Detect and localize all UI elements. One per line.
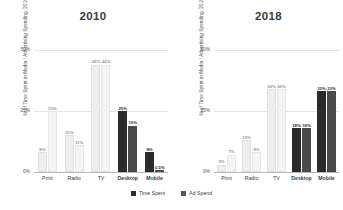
- bar-group: 8%25%Print: [34, 50, 61, 172]
- bar-groups-2010: 8%25%Print15%11%Radio44%44%TV25%19%Deskt…: [34, 50, 168, 172]
- x-tick-label: Print: [42, 175, 53, 181]
- bar-group: 18%18%Desktop: [289, 50, 314, 172]
- bar-ad-spend: 11%: [75, 145, 84, 172]
- bar-group: 25%19%Desktop: [114, 50, 141, 172]
- legend-label: Time Spent: [139, 190, 165, 196]
- plot-area-2018: 50% 25% 0% 3%7%Print13%8%Radio34%34%TV18…: [214, 50, 339, 172]
- bar-time-spent: 18%: [292, 128, 301, 172]
- bar-time-spent: 34%: [267, 89, 276, 172]
- bar-value-label: 33%: [327, 86, 336, 91]
- x-tick-label: TV: [273, 175, 280, 181]
- bar-value-label: 34%: [277, 84, 286, 89]
- plot-area-2010: 50% 25% 0% 8%25%Print15%11%Radio44%44%TV…: [34, 50, 168, 172]
- bars: 18%18%: [292, 50, 311, 172]
- bar-value-label: 8%: [146, 147, 152, 152]
- bar-group: 33%33%Mobile: [314, 50, 339, 172]
- bar-group: 34%34%TV: [264, 50, 289, 172]
- x-tick-label: TV: [98, 175, 105, 181]
- x-tick-label: Mobile: [146, 175, 162, 181]
- bar-value-label: 0.5%: [155, 165, 165, 170]
- bar-value-label: 15%: [65, 130, 74, 135]
- bar-group: 13%8%Radio: [239, 50, 264, 172]
- bars: 44%44%: [91, 50, 110, 172]
- bar-time-spent: 44%: [91, 65, 100, 172]
- legend-swatch-icon: [181, 191, 186, 196]
- bar-value-label: 11%: [75, 140, 83, 145]
- y-axis-label-2018: % of Time Spent in Media / Advertising S…: [199, 0, 204, 116]
- y-tick-25-2018: 25%: [184, 108, 210, 113]
- bar-value-label: 33%: [317, 86, 326, 91]
- bar-ad-spend: 18%: [302, 128, 311, 172]
- legend-label: Ad Spend: [189, 190, 212, 196]
- y-tick-50-2010: 50%: [4, 47, 30, 52]
- bar-value-label: 7%: [228, 149, 234, 154]
- bar-time-spent: 3%: [217, 165, 226, 172]
- bar-group: 8%0.5%Mobile: [141, 50, 168, 172]
- y-tick-0-2018: 0%: [184, 169, 210, 174]
- chart-panel-2010: 2010 % of Time Spent in Media / Advertis…: [0, 0, 172, 186]
- bar-time-spent: 33%: [317, 91, 326, 172]
- bar-ad-spend: 34%: [277, 89, 286, 172]
- bar-value-label: 25%: [48, 106, 57, 111]
- bar-value-label: 18%: [292, 123, 301, 128]
- bar-groups-2018: 3%7%Print13%8%Radio34%34%TV18%18%Desktop…: [214, 50, 339, 172]
- bar-group: 15%11%Radio: [61, 50, 88, 172]
- chart-figure: 2010 % of Time Spent in Media / Advertis…: [0, 0, 343, 210]
- y-tick-0-2010: 0%: [4, 169, 30, 174]
- bar-ad-spend: 0.5%: [155, 170, 164, 172]
- bar-value-label: 8%: [39, 147, 45, 152]
- x-tick-label: Desktop: [118, 175, 138, 181]
- bars: 3%7%: [217, 50, 236, 172]
- bar-time-spent: 15%: [65, 135, 74, 172]
- bar-value-label: 25%: [118, 106, 127, 111]
- legend-item-ad-spend: Ad Spend: [181, 190, 212, 196]
- bar-time-spent: 8%: [38, 152, 47, 172]
- bar-group: 3%7%Print: [214, 50, 239, 172]
- y-axis-label-2010: % of Time Spent in Media / Advertising S…: [23, 0, 28, 116]
- bar-time-spent: 8%: [145, 152, 154, 172]
- bar-value-label: 3%: [218, 159, 224, 164]
- bars: 33%33%: [317, 50, 336, 172]
- bar-value-label: 18%: [302, 123, 311, 128]
- bars: 13%8%: [242, 50, 261, 172]
- bar-value-label: 13%: [242, 135, 251, 140]
- bar-group: 44%44%TV: [88, 50, 115, 172]
- x-tick-label: Radio: [245, 175, 259, 181]
- x-tick-label: Desktop: [291, 175, 311, 181]
- bars: 15%11%: [65, 50, 84, 172]
- bar-value-label: 19%: [128, 120, 137, 125]
- chart-panel-2018: 2018 % of Time Spent in Media / Advertis…: [172, 0, 343, 186]
- bars: 8%25%: [38, 50, 57, 172]
- bar-ad-spend: 8%: [252, 152, 261, 172]
- bar-value-label: 8%: [253, 147, 259, 152]
- axis-line-0: [34, 172, 168, 173]
- bars: 8%0.5%: [145, 50, 164, 172]
- legend-swatch-icon: [131, 191, 136, 196]
- legend: Time Spent Ad Spend: [0, 190, 343, 196]
- bar-ad-spend: 33%: [327, 91, 336, 172]
- legend-item-time-spent: Time Spent: [131, 190, 165, 196]
- bar-ad-spend: 7%: [227, 155, 236, 172]
- x-tick-label: Print: [221, 175, 232, 181]
- y-tick-25-2010: 25%: [4, 108, 30, 113]
- bars: 25%19%: [118, 50, 137, 172]
- bar-time-spent: 25%: [118, 111, 127, 172]
- y-tick-50-2018: 50%: [184, 47, 210, 52]
- bar-ad-spend: 25%: [48, 111, 57, 172]
- bar-value-label: 44%: [102, 59, 111, 64]
- bar-ad-spend: 44%: [101, 65, 110, 172]
- bars: 34%34%: [267, 50, 286, 172]
- bar-time-spent: 13%: [242, 140, 251, 172]
- x-tick-label: Radio: [67, 175, 81, 181]
- bar-ad-spend: 19%: [128, 126, 137, 172]
- x-tick-label: Mobile: [318, 175, 334, 181]
- bar-value-label: 34%: [267, 84, 276, 89]
- axis-line-0: [214, 172, 339, 173]
- bar-value-label: 44%: [92, 59, 101, 64]
